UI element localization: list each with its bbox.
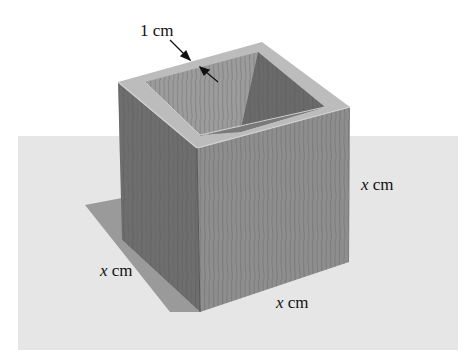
wall-thickness-label: 1 cm [140, 22, 174, 39]
height-label: x cm [361, 176, 394, 193]
depth-label: x cm [100, 262, 133, 279]
box-illustration [0, 0, 468, 363]
box-diagram: 1 cm x cm x cm x cm [0, 0, 468, 363]
width-label: x cm [276, 294, 309, 311]
